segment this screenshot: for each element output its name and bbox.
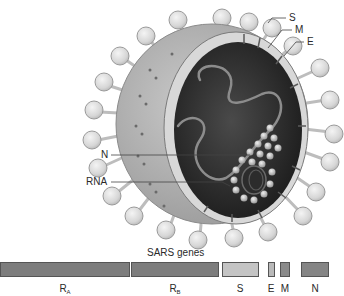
gene-e-label: E	[268, 284, 275, 294]
label-s: S	[289, 13, 296, 23]
gene-n-bar	[301, 262, 329, 277]
gene-rb-label: RB	[169, 284, 180, 296]
sars-virion-illustration	[0, 0, 344, 250]
label-e: E	[307, 37, 314, 47]
gene-n-label: N	[311, 284, 318, 294]
gene-ra-bar	[0, 262, 130, 277]
label-m: M	[295, 25, 303, 35]
gene-m-bar	[280, 262, 290, 277]
gene-ra-label: RA	[59, 284, 70, 296]
gene-s-label: S	[237, 284, 244, 294]
gene-e-bar	[268, 262, 275, 277]
label-rna: RNA	[86, 177, 107, 187]
gene-rb-bar	[131, 262, 219, 277]
gene-s-bar	[222, 262, 259, 277]
gene-m-label: M	[281, 284, 289, 294]
label-n: N	[101, 150, 108, 160]
genes-title: SARS genes	[147, 248, 204, 258]
